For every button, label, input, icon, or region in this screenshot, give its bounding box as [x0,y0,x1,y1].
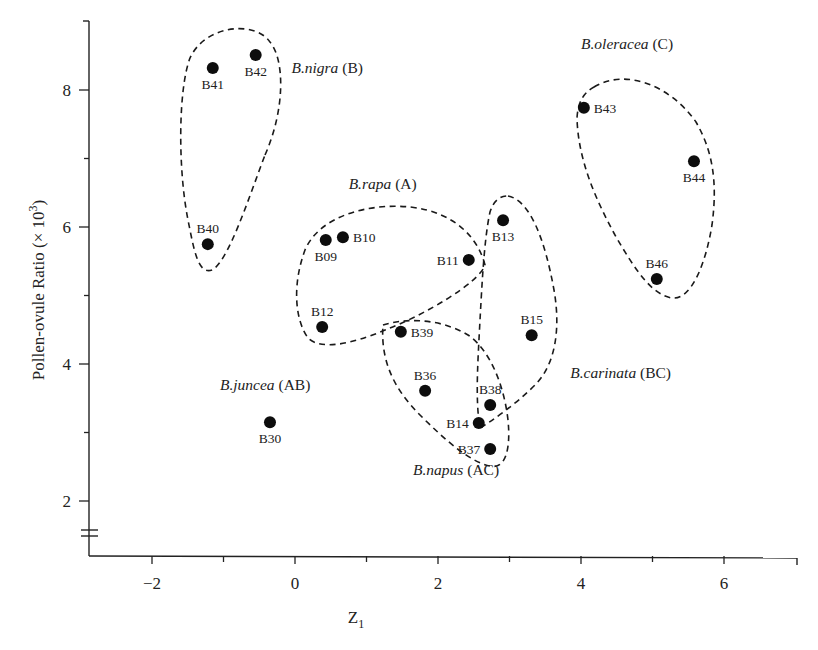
data-point-b41: B41 [202,62,225,92]
point-label: B44 [683,170,706,185]
point-marker [320,234,332,246]
x-axis-title: Z1 [348,608,364,631]
point-marker [207,62,219,74]
point-marker [395,326,407,338]
point-marker [484,443,496,455]
y-axis-title: Pollen-ovule Ratio (× 103) [26,200,48,380]
group-label-b-rapa: B.rapa (A) [349,175,417,193]
point-label: B38 [479,382,502,397]
data-point-b15: B15 [520,312,543,341]
point-label: B14 [446,416,469,431]
data-point-b43: B43 [578,101,617,116]
data-point-b46: B46 [646,256,669,285]
x-tick-label: −2 [143,574,161,593]
point-marker [497,214,509,226]
point-label: B36 [414,368,437,383]
point-label: B11 [437,253,459,268]
data-point-b12: B12 [311,304,334,333]
group-label-b-napus: B.napus (AC) [413,461,499,479]
group-label-b-oleracea: B.oleracea (C) [581,35,673,53]
point-marker [264,416,276,428]
point-marker [202,238,214,250]
point-label: B40 [197,221,220,236]
point-label: B15 [520,312,543,327]
data-point-b14: B14 [446,416,485,431]
data-point-b37: B37 [458,442,497,457]
point-label: B10 [353,230,376,245]
data-point-b36: B36 [414,368,437,397]
point-marker [473,417,485,429]
point-marker [337,231,349,243]
group-hulls [181,29,715,467]
point-label: B13 [492,229,515,244]
x-tick-label: 4 [577,574,586,593]
data-point-b42: B42 [244,49,267,79]
scatter-chart: −202462468 B41B42B40B09B10B11B12B13B15B1… [0,0,818,650]
axis-ticks: −202462468 [63,81,729,593]
point-label: B41 [202,77,225,92]
data-point-b39: B39 [395,325,434,340]
data-point-b11: B11 [437,253,475,268]
point-marker [419,385,431,397]
point-marker [578,102,590,114]
point-label: B46 [646,256,669,271]
point-marker [484,399,496,411]
point-marker [250,49,262,61]
point-marker [688,155,700,167]
data-point-b44: B44 [683,155,706,185]
point-label: B39 [411,325,434,340]
data-point-b09: B09 [314,234,337,264]
data-points: B41B42B40B09B10B11B12B13B15B14B39B36B38B… [197,49,706,457]
group-label-b-nigra: B.nigra (B) [291,59,362,77]
y-tick-label: 4 [63,355,72,374]
point-marker [316,321,328,333]
x-tick-label: 2 [434,574,443,593]
data-point-b10: B10 [337,230,376,245]
y-tick-label: 8 [63,81,72,100]
y-tick-label: 2 [63,492,72,511]
group-label-b-juncea: B.juncea (AB) [220,376,310,394]
x-tick-label: 6 [720,574,729,593]
data-point-b38: B38 [479,382,502,411]
data-point-b40: B40 [197,221,220,250]
x-tick-label: 0 [291,574,300,593]
x-axis-line [89,556,797,558]
axes [81,21,797,565]
point-label: B30 [259,431,282,446]
data-point-b13: B13 [492,214,515,244]
point-label: B09 [314,249,337,264]
point-label: B37 [458,442,481,457]
point-marker [651,273,663,285]
y-tick-label: 6 [63,218,72,237]
data-point-b30: B30 [259,416,282,446]
point-marker [526,329,538,341]
group-label-b-carinata: B.carinata (BC) [570,364,671,382]
point-label: B12 [311,304,334,319]
point-label: B43 [594,101,617,116]
point-label: B42 [244,64,267,79]
point-marker [463,254,475,266]
